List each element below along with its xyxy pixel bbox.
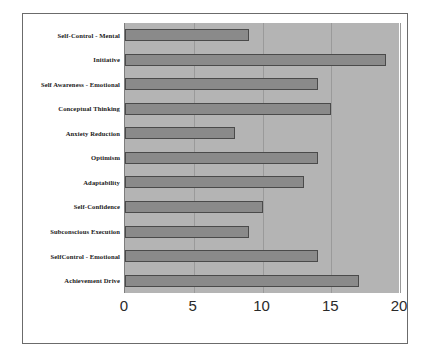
category-label-row: Self-Control - Mental <box>23 23 124 48</box>
plot-area <box>124 23 399 293</box>
bar[interactable] <box>125 275 359 287</box>
bar-row <box>125 72 399 97</box>
bar[interactable] <box>125 127 235 139</box>
bar-row <box>125 23 399 48</box>
value-tick-label: 5 <box>189 297 197 314</box>
chart-canvas: Self-Control - Mental Initiative Self Aw… <box>23 14 407 343</box>
chart-frame: Self-Control - Mental Initiative Self Aw… <box>22 13 408 344</box>
category-label: Self Awareness - Emotional <box>41 81 120 88</box>
category-label-row: Self-Confidence <box>23 195 124 220</box>
bar[interactable] <box>125 103 331 115</box>
category-label: Conceptual Thinking <box>58 105 120 112</box>
bar[interactable] <box>125 226 249 238</box>
bar-row <box>125 121 399 146</box>
bar-row <box>125 97 399 122</box>
category-label-row: SelfControl - Emotional <box>23 244 124 269</box>
bar[interactable] <box>125 78 318 90</box>
bar[interactable] <box>125 201 263 213</box>
gridline <box>400 23 401 293</box>
category-label: Subconscious Execution <box>50 228 120 235</box>
category-axis-labels: Self-Control - Mental Initiative Self Aw… <box>23 23 124 293</box>
category-label-row: Self Awareness - Emotional <box>23 72 124 97</box>
category-label-row: Initiative <box>23 48 124 73</box>
bar-row <box>125 48 399 73</box>
bar[interactable] <box>125 29 249 41</box>
value-tick-label: 15 <box>322 297 339 314</box>
category-label: Self-Control - Mental <box>58 32 120 39</box>
bar-row <box>125 195 399 220</box>
category-label: SelfControl - Emotional <box>50 253 120 260</box>
category-label: Self-Confidence <box>74 203 120 210</box>
bar-row <box>125 170 399 195</box>
category-label: Achievement Drive <box>64 277 120 284</box>
value-tick-label: 10 <box>253 297 270 314</box>
category-label: Optimism <box>91 154 120 161</box>
bar-series <box>125 23 399 293</box>
category-label: Adaptability <box>83 179 120 186</box>
bar[interactable] <box>125 250 318 262</box>
category-label-row: Subconscious Execution <box>23 219 124 244</box>
category-label: Anxiety Reduction <box>66 130 120 137</box>
bar-row <box>125 244 399 269</box>
bar-row <box>125 268 399 293</box>
bar[interactable] <box>125 54 386 66</box>
category-label: Initiative <box>93 56 120 63</box>
value-tick-label: 0 <box>120 297 128 314</box>
category-label-row: Adaptability <box>23 170 124 195</box>
value-tick-label: 20 <box>391 297 408 314</box>
value-axis-labels: 05101520 <box>124 297 399 325</box>
category-label-row: Conceptual Thinking <box>23 97 124 122</box>
bar-row <box>125 146 399 171</box>
bar-row <box>125 219 399 244</box>
bar[interactable] <box>125 176 304 188</box>
bar[interactable] <box>125 152 318 164</box>
category-label-row: Anxiety Reduction <box>23 121 124 146</box>
category-label-row: Achievement Drive <box>23 268 124 293</box>
category-label-row: Optimism <box>23 146 124 171</box>
